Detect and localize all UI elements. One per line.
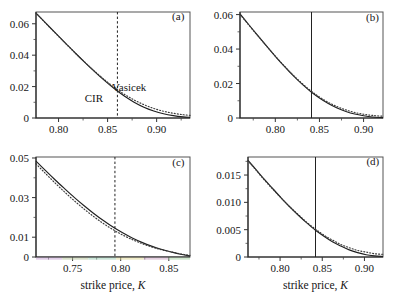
figure-canvas: 00.020.040.060.800.850.90CIRVasicek(a)00… bbox=[0, 0, 396, 302]
y-tick-label: 0 bbox=[236, 251, 242, 263]
x-tick-label: 0.85 bbox=[313, 262, 333, 274]
panel-svg-d: 00.0050.0100.0150.800.850.90(d)strike pr… bbox=[0, 0, 396, 302]
y-tick-label: 0.015 bbox=[216, 169, 241, 181]
y-tick-label: 0.010 bbox=[216, 196, 241, 208]
y-tick-label: 0.005 bbox=[216, 224, 241, 236]
panel-label: (d) bbox=[366, 155, 379, 168]
x-axis-label: strike price, K bbox=[283, 279, 349, 292]
x-tick-label: 0.80 bbox=[270, 262, 290, 274]
x-tick-label: 0.90 bbox=[355, 262, 375, 274]
